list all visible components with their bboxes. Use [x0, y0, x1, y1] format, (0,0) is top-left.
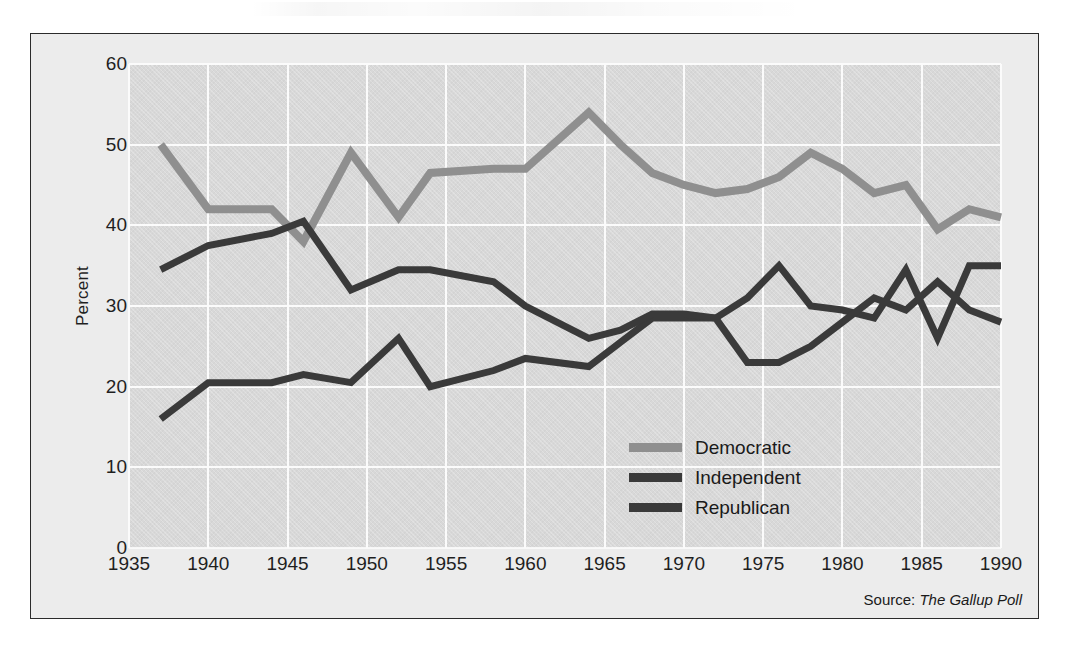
x-axis-tick-labels: 1935194019451950195519601965197019751980…: [31, 554, 1038, 584]
chart-legend: DemocraticIndependentRepublican: [629, 432, 801, 522]
legend-swatch-republican: [629, 503, 682, 512]
source-publication-label: The Gallup Poll: [919, 591, 1022, 608]
y-axis-tick-labels: 0102030405060: [83, 34, 127, 618]
x-tick-label: 1970: [649, 554, 719, 573]
series-line-democratic: [161, 112, 1001, 241]
scan-artifact-strip: [250, 2, 810, 16]
x-tick-label: 1975: [728, 554, 798, 573]
chart-figure-frame: Percent 0102030405060 193519401945195019…: [30, 33, 1039, 619]
legend-label-democratic: Democratic: [695, 438, 791, 457]
y-tick-label: 30: [83, 296, 127, 315]
y-tick-label: 10: [83, 457, 127, 476]
x-tick-label: 1980: [807, 554, 877, 573]
y-tick-label: 20: [83, 377, 127, 396]
y-tick-label: 50: [83, 135, 127, 154]
legend-item-independent: Independent: [629, 462, 801, 492]
x-tick-label: 1940: [173, 554, 243, 573]
x-tick-label: 1965: [570, 554, 640, 573]
series-lines: [129, 64, 1001, 548]
legend-item-democratic: Democratic: [629, 432, 801, 462]
y-tick-label: 60: [83, 54, 127, 73]
series-line-republican: [161, 221, 1001, 362]
source-prefix-label: Source:: [864, 591, 916, 608]
source-note: Source: The Gallup Poll: [864, 591, 1022, 608]
x-tick-label: 1955: [411, 554, 481, 573]
legend-swatch-independent: [629, 473, 682, 482]
legend-item-republican: Republican: [629, 492, 801, 522]
legend-swatch-democratic: [629, 443, 682, 452]
x-tick-label: 1985: [887, 554, 957, 573]
series-line-independent: [161, 266, 1001, 419]
x-tick-label: 1990: [966, 554, 1036, 573]
legend-label-republican: Republican: [695, 498, 790, 517]
x-tick-label: 1950: [332, 554, 402, 573]
y-tick-label: 40: [83, 215, 127, 234]
legend-label-independent: Independent: [695, 468, 801, 487]
x-tick-label: 1945: [253, 554, 323, 573]
plot-area: [129, 64, 1001, 548]
x-tick-label: 1935: [94, 554, 164, 573]
x-tick-label: 1960: [490, 554, 560, 573]
